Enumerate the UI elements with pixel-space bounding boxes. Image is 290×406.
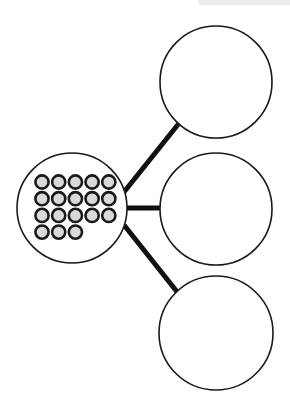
counter-dot	[35, 175, 48, 188]
counter-dot	[86, 175, 99, 188]
part-circle-bottom[interactable]	[159, 276, 273, 390]
counter-dot	[86, 209, 99, 222]
counter-dot	[35, 226, 48, 239]
counter-dot	[35, 192, 48, 205]
counter-dot	[102, 192, 115, 205]
counter-dot	[35, 209, 48, 222]
counter-dot	[52, 226, 65, 239]
number-bond-diagram	[0, 0, 290, 406]
part-circle-top[interactable]	[160, 26, 272, 138]
counter-dot	[52, 175, 65, 188]
counter-dot	[102, 209, 115, 222]
counter-dot	[52, 209, 65, 222]
counter-dot	[69, 192, 82, 205]
counter-dot	[69, 175, 82, 188]
counter-dot	[52, 192, 65, 205]
part-circle-middle[interactable]	[160, 153, 272, 265]
counter-dot	[69, 209, 82, 222]
counter-dot	[86, 192, 99, 205]
counter-dot	[69, 226, 82, 239]
counter-dot	[102, 175, 115, 188]
